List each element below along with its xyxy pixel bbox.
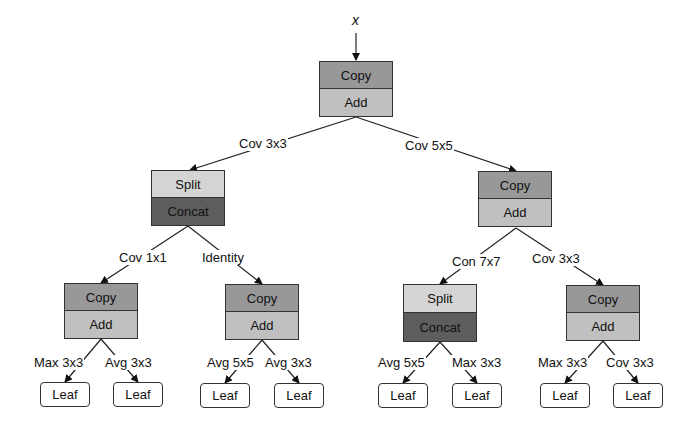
leaf-2: Leaf xyxy=(113,382,163,407)
edge-label-right-rr: Cov 3x3 xyxy=(531,251,581,266)
node-rl-concat: Concat xyxy=(404,313,476,341)
node-rl: Split Concat xyxy=(403,284,477,342)
node-ll: Copy Add xyxy=(64,283,138,339)
input-x-label: x xyxy=(352,12,359,28)
edge-label-ll-2: Avg 3x3 xyxy=(104,355,153,370)
node-lr: Copy Add xyxy=(225,284,299,340)
node-right: Copy Add xyxy=(478,171,552,227)
leaf-8: Leaf xyxy=(613,383,663,408)
edge-label-rr-1: Max 3x3 xyxy=(537,355,588,370)
node-left-concat: Concat xyxy=(152,198,224,225)
edge-label-rl-1: Avg 5x5 xyxy=(377,355,426,370)
tree-diagram: x Copy Add Split Concat Copy Add Copy Ad… xyxy=(0,0,696,434)
node-lr-copy: Copy xyxy=(226,285,298,312)
edge-label-left-ll: Cov 1x1 xyxy=(118,250,168,265)
leaf-3: Leaf xyxy=(200,383,250,408)
leaf-6: Leaf xyxy=(452,383,502,408)
node-right-add: Add xyxy=(479,199,551,226)
edge-label-lr-2: Avg 3x3 xyxy=(264,355,313,370)
node-rr-copy: Copy xyxy=(567,286,639,313)
edge-label-right-rl: Con 7x7 xyxy=(451,254,501,269)
leaf-7: Leaf xyxy=(540,383,590,408)
edge-label-root-left: Cov 3x3 xyxy=(238,136,288,151)
edge-label-rl-2: Max 3x3 xyxy=(451,355,502,370)
node-rl-split: Split xyxy=(404,285,476,313)
node-root-add: Add xyxy=(320,89,392,116)
edge-label-rr-2: Cov 3x3 xyxy=(605,355,655,370)
edge-label-lr-1: Avg 5x5 xyxy=(206,355,255,370)
leaf-1: Leaf xyxy=(40,382,90,407)
node-ll-add: Add xyxy=(65,311,137,338)
edge-label-left-lr: Identity xyxy=(201,250,245,265)
node-lr-add: Add xyxy=(226,312,298,339)
leaf-5: Leaf xyxy=(378,383,428,408)
node-right-copy: Copy xyxy=(479,172,551,199)
leaf-4: Leaf xyxy=(274,383,324,408)
node-rr: Copy Add xyxy=(566,285,640,341)
node-rr-add: Add xyxy=(567,313,639,340)
edge-label-ll-1: Max 3x3 xyxy=(33,355,84,370)
edge-label-root-right: Cov 5x5 xyxy=(404,138,454,153)
node-root: Copy Add xyxy=(319,61,393,117)
node-root-copy: Copy xyxy=(320,62,392,89)
node-left-split: Split xyxy=(152,171,224,198)
node-ll-copy: Copy xyxy=(65,284,137,311)
node-left: Split Concat xyxy=(151,170,225,226)
